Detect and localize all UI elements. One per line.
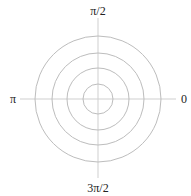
label-top: π/2 xyxy=(90,4,105,18)
label-left: π xyxy=(10,92,16,106)
label-bottom: 3π/2 xyxy=(87,181,108,195)
polar-grid-diagram: π/2 3π/2 π 0 xyxy=(0,0,191,196)
label-right: 0 xyxy=(181,92,187,106)
